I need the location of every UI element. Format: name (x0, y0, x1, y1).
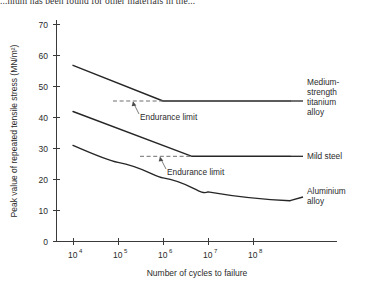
x-tick-exponent-1e8: 8 (259, 248, 263, 254)
y-tick-label-70: 70 (39, 20, 49, 30)
series-label-aluminium-line-1: Aluminium (307, 186, 346, 196)
y-tick-label-50: 50 (39, 82, 49, 92)
x-tick-base-1e5: 10 (113, 250, 123, 260)
series-label-mild-steel: Mild steel (307, 151, 342, 161)
series-label-aluminium-line-2: alloy (307, 196, 325, 206)
x-tick-label-1e6: 10 6 (158, 248, 173, 260)
series-label-titanium-line-2: strength (307, 87, 337, 97)
endurance-limit-label-mild-steel: Endurance limit (167, 167, 225, 177)
series-line-titanium (73, 65, 290, 101)
y-tick-label-60: 60 (39, 51, 49, 61)
y-tick-label-10: 10 (39, 206, 49, 216)
x-tick-label-1e5: 10 5 (113, 248, 128, 260)
fatigue-sn-chart: 70 60 50 40 30 20 10 0 10 4 10 5 10 6 10… (0, 0, 369, 289)
x-tick-exponent-1e5: 5 (124, 248, 128, 254)
y-tick-label-30: 30 (39, 144, 49, 154)
chart-axes (57, 20, 338, 242)
x-tick-base-1e8: 10 (248, 250, 258, 260)
x-tick-base-1e7: 10 (203, 250, 213, 260)
x-axis-tick-labels: 10 4 10 5 10 6 10 7 10 8 (68, 248, 263, 260)
x-tick-label-1e7: 10 7 (203, 248, 218, 260)
x-tick-label-1e4: 10 4 (68, 248, 83, 260)
endurance-limit-label-titanium: Endurance limit (140, 112, 198, 122)
endurance-limit-annotation-titanium: Endurance limit (113, 101, 198, 122)
series-label-aluminium: Aluminium alloy (307, 186, 346, 206)
y-tick-label-40: 40 (39, 113, 49, 123)
y-axis-title: Peak value of repeated tensile stress (M… (9, 44, 19, 217)
endurance-arrowhead-titanium (132, 102, 137, 107)
x-tick-exponent-1e6: 6 (169, 248, 173, 254)
series-label-titanium-line-3: titanium (307, 97, 336, 107)
series-label-titanium-line-1: Medium- (307, 77, 340, 87)
y-axis-tick-labels: 70 60 50 40 30 20 10 0 (39, 20, 49, 247)
x-tick-base-1e6: 10 (158, 250, 168, 260)
x-tick-exponent-1e7: 7 (214, 248, 218, 254)
series-label-titanium: Medium- strength titanium alloy (307, 77, 340, 117)
chart-series (73, 65, 290, 200)
x-tick-base-1e4: 10 (68, 250, 78, 260)
leader-line-aluminium (290, 197, 303, 201)
endurance-arrowhead-mild-steel (159, 157, 164, 162)
x-axis-title: Number of cycles to failure (147, 268, 248, 278)
y-tick-label-20: 20 (39, 175, 49, 185)
series-label-leaders (290, 101, 303, 201)
x-tick-exponent-1e4: 4 (79, 248, 83, 254)
series-label-mild-steel-line-1: Mild steel (307, 151, 342, 161)
x-tick-label-1e8: 10 8 (248, 248, 263, 260)
series-label-titanium-line-4: alloy (307, 107, 325, 117)
y-tick-label-0: 0 (43, 237, 48, 247)
